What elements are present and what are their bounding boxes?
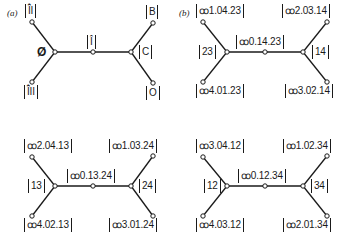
node-d-top-right: ꝏ1.02.34: [283, 139, 331, 153]
node-d-middle: ꝏ0.12.34: [238, 169, 286, 183]
node-b-left-junction: 23: [199, 45, 216, 59]
node-b-middle: ꝏ0.14.23: [236, 35, 284, 49]
node-d-left-junction: 12: [204, 179, 221, 193]
node-b-top-left: ꝏ1.04.23: [196, 4, 244, 18]
node-b-bottom-right: ꝏ3.02.14: [285, 84, 333, 98]
node-b-top-right: ꝏ2.03.14: [282, 4, 330, 18]
node-d-right-junction: 34: [311, 179, 328, 193]
node-d-bottom-left: ꝏ4.03.12: [196, 218, 244, 232]
node-a-top-left: Î̂I: [25, 4, 36, 18]
tree-diagrams: [0, 0, 341, 240]
node-a-root: Ø: [37, 45, 46, 59]
node-d-bottom-right: ꝏ2.01.34: [283, 218, 331, 232]
node-a-bottom-right: O: [146, 86, 160, 100]
node-c-bottom-right: ꝏ3.01.24: [109, 218, 157, 232]
node-a-bottom-left: Î̂II: [24, 85, 38, 99]
node-b-bottom-left: ꝏ4.01.23: [196, 84, 244, 98]
node-c-right-junction: 24: [139, 179, 156, 193]
panel-a-tag: (a): [7, 8, 18, 18]
node-c-left-junction: 13: [28, 179, 45, 193]
node-d-top-left: ꝏ3.04.12: [196, 139, 244, 153]
node-c-bottom-left: ꝏ4.02.13: [24, 218, 72, 232]
node-a-middle: Î: [87, 35, 96, 49]
node-c-middle: ꝏ0.13.24: [67, 169, 115, 183]
node-a-right-junction: C: [139, 45, 152, 59]
node-a-top-right: B: [146, 5, 158, 19]
node-c-top-right: ꝏ1.03.24: [109, 139, 157, 153]
node-c-top-left: ꝏ2.04.13: [24, 139, 72, 153]
panel-b-tag: (b): [179, 8, 190, 18]
node-b-right-junction: 14: [312, 45, 329, 59]
